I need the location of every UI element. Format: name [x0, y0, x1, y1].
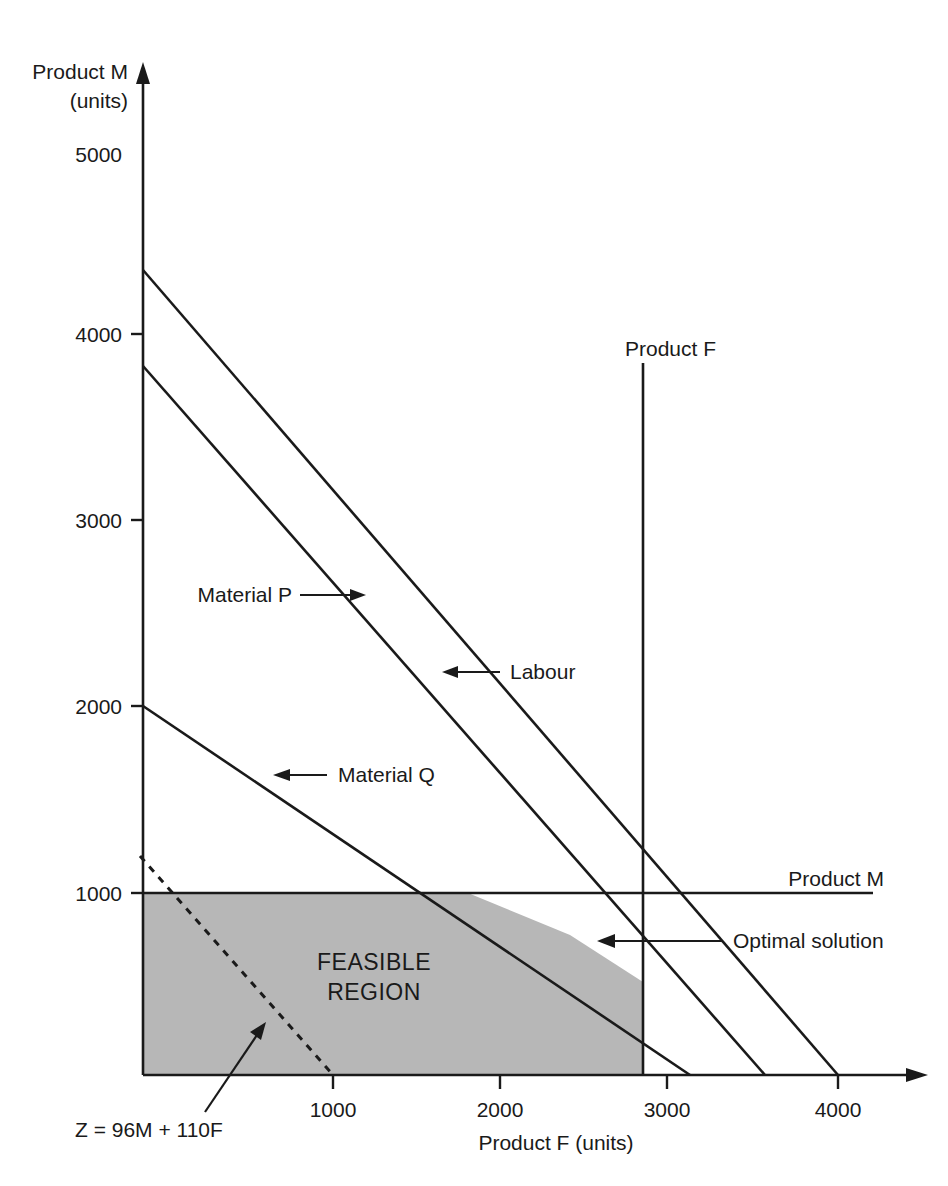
x-axis-title: Product F (units): [478, 1131, 633, 1154]
feasible-region-label-line2: REGION: [327, 979, 421, 1005]
feasible-region-label-line1: FEASIBLE: [317, 949, 431, 975]
material-p-label: Material P: [197, 583, 292, 606]
y-axis-title-line2: (units): [70, 89, 128, 112]
labour-label: Labour: [510, 660, 575, 683]
x-tick-label-3000: 3000: [644, 1098, 691, 1121]
y-tick-label-3000: 3000: [75, 509, 122, 532]
optimal-solution-label: Optimal solution: [733, 929, 884, 952]
x-tick-label-2000: 2000: [477, 1098, 524, 1121]
y-tick-label-5000: 5000: [75, 143, 122, 166]
product-m-label: Product M: [788, 867, 884, 890]
y-tick-label-2000: 2000: [75, 695, 122, 718]
y-tick-label-4000: 4000: [75, 323, 122, 346]
lp-graph-svg: 5000 4000 3000 2000 1000 1000 2000 3000 …: [0, 0, 948, 1186]
linear-programming-figure: 5000 4000 3000 2000 1000 1000 2000 3000 …: [0, 0, 948, 1186]
y-axis-title-line1: Product M: [32, 60, 128, 83]
x-tick-label-1000: 1000: [310, 1098, 357, 1121]
x-tick-label-4000: 4000: [815, 1098, 862, 1121]
material-q-label: Material Q: [338, 763, 435, 786]
product-f-label: Product F: [625, 337, 716, 360]
objective-function-label: Z = 96M + 110F: [75, 1118, 223, 1141]
y-tick-label-1000: 1000: [75, 882, 122, 905]
